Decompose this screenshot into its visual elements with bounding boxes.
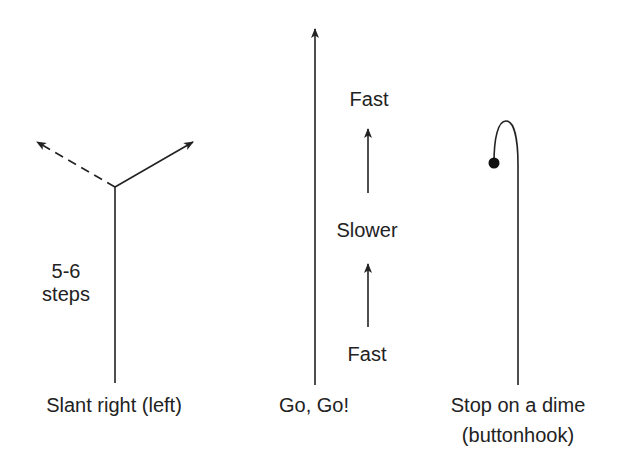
slant-route-label: Slant right (left) (46, 394, 182, 417)
speed-label-slower: Slower (336, 219, 397, 242)
buttonhook-stop-dot (489, 158, 500, 169)
slant-left-dashed-arrow (37, 142, 115, 187)
go-route-label: Go, Go! (279, 394, 349, 417)
steps-count-text: 5-6 (42, 260, 90, 283)
steps-word-text: steps (42, 283, 90, 306)
slant-steps-annotation: 5-6 steps (42, 260, 90, 306)
buttonhook-label-line1: Stop on a dime (451, 394, 586, 417)
buttonhook-route (489, 121, 519, 385)
slant-right-arrow (115, 142, 193, 187)
speed-label-fast-top: Fast (350, 88, 389, 111)
go-route (315, 29, 368, 385)
buttonhook-label-line2: (buttonhook) (451, 424, 586, 447)
buttonhook-route-label: Stop on a dime (buttonhook) (451, 394, 586, 447)
speed-label-fast-bottom: Fast (348, 343, 387, 366)
